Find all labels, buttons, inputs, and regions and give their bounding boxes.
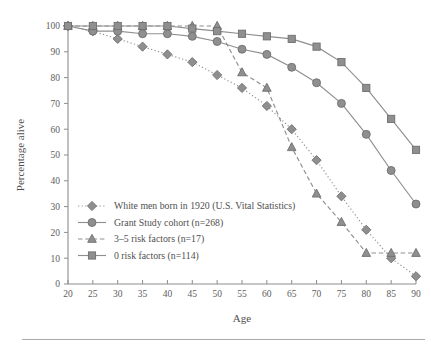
y-tick-label-80: 80 — [51, 73, 61, 83]
x-tick-label-60: 60 — [262, 289, 272, 299]
series-2-point-14 — [412, 248, 421, 256]
series-0-point-3 — [138, 42, 147, 51]
survival-curve-chart: 0102030405060708090100202530354045505560… — [0, 0, 431, 356]
legend-label-1: Grant Study cohort (n=268) — [114, 217, 223, 229]
y-tick-label-90: 90 — [51, 47, 61, 57]
x-axis-title: Age — [233, 312, 251, 324]
series-0-point-6 — [213, 70, 222, 79]
series-3-point-1 — [89, 22, 96, 29]
series-1-point-10 — [313, 79, 321, 87]
series-3-point-3 — [139, 22, 146, 29]
y-tick-label-0: 0 — [55, 279, 60, 289]
series-1-point-7 — [238, 45, 246, 53]
series-1-point-11 — [337, 99, 345, 107]
y-tick-label-70: 70 — [51, 99, 61, 109]
legend-entry-2: 3–5 risk factors (n=17) — [78, 233, 204, 245]
x-tick-label-20: 20 — [63, 289, 73, 299]
series-2-point-9 — [287, 143, 296, 151]
series-1-point-13 — [387, 166, 395, 174]
y-tick-label-30: 30 — [51, 202, 61, 212]
legend-marker-3 — [88, 252, 95, 259]
series-0-point-5 — [188, 58, 197, 67]
x-tick-label-85: 85 — [386, 289, 396, 299]
x-tick-label-75: 75 — [337, 289, 347, 299]
series-3-point-4 — [164, 22, 171, 29]
series-3-point-0 — [64, 22, 71, 29]
series-1-point-8 — [263, 50, 271, 58]
y-tick-label-10: 10 — [51, 254, 61, 264]
series-2-point-13 — [387, 248, 396, 256]
x-tick-label-30: 30 — [113, 289, 123, 299]
series-1-point-5 — [188, 32, 196, 40]
series-1-point-4 — [163, 30, 171, 38]
legend-marker-1 — [88, 219, 96, 227]
series-1-point-14 — [412, 200, 420, 208]
x-tick-label-50: 50 — [212, 289, 222, 299]
series-0-point-7 — [237, 83, 246, 92]
series-3-point-14 — [412, 146, 419, 153]
series-3-point-9 — [288, 35, 295, 42]
legend-label-3: 0 risk factors (n=114) — [114, 250, 199, 262]
series-0-point-12 — [362, 225, 371, 234]
y-tick-label-20: 20 — [51, 228, 61, 238]
legend-entry-1: Grant Study cohort (n=268) — [78, 217, 223, 229]
legend-marker-2 — [88, 234, 97, 242]
x-tick-label-80: 80 — [362, 289, 372, 299]
series-2-point-7 — [238, 68, 247, 76]
x-tick-label-70: 70 — [312, 289, 322, 299]
series-3-point-10 — [313, 43, 320, 50]
series-1-point-12 — [362, 130, 370, 138]
series-3-point-6 — [214, 28, 221, 35]
series-0-point-2 — [113, 34, 122, 43]
series-2-point-10 — [312, 189, 321, 197]
x-tick-label-90: 90 — [411, 289, 421, 299]
series-0-point-8 — [262, 101, 271, 110]
x-tick-label-55: 55 — [237, 289, 247, 299]
series-3-point-2 — [114, 22, 121, 29]
legend-marker-0 — [87, 201, 96, 210]
series-3-point-13 — [388, 115, 395, 122]
x-tick-label-45: 45 — [188, 289, 198, 299]
series-1-point-6 — [213, 37, 221, 45]
footer-rule — [22, 339, 425, 340]
figure-container: 0102030405060708090100202530354045505560… — [0, 0, 431, 356]
x-tick-label-25: 25 — [88, 289, 98, 299]
x-tick-label-65: 65 — [287, 289, 297, 299]
x-tick-label-35: 35 — [138, 289, 148, 299]
series-1-point-3 — [139, 30, 147, 38]
series-0-point-14 — [411, 272, 420, 281]
series-2-point-8 — [263, 83, 272, 91]
series-1-point-9 — [288, 63, 296, 71]
y-tick-label-60: 60 — [51, 125, 61, 135]
y-axis-title: Percentage alive — [14, 119, 26, 191]
series-3-point-5 — [189, 25, 196, 32]
y-tick-label-40: 40 — [51, 176, 61, 186]
legend-entry-3: 0 risk factors (n=114) — [78, 250, 199, 262]
series-3-point-8 — [263, 33, 270, 40]
series-3-point-7 — [238, 30, 245, 37]
legend-entry-0: White men born in 1920 (U.S. Vital Stati… — [78, 200, 295, 212]
y-tick-label-50: 50 — [51, 150, 61, 160]
series-2-point-12 — [362, 248, 371, 256]
legend-label-2: 3–5 risk factors (n=17) — [114, 233, 204, 245]
x-tick-label-40: 40 — [163, 289, 173, 299]
legend-label-0: White men born in 1920 (U.S. Vital Stati… — [114, 200, 295, 212]
series-3-point-11 — [338, 59, 345, 66]
series-0-point-11 — [337, 192, 346, 201]
y-tick-label-100: 100 — [46, 21, 61, 31]
series-0-point-4 — [163, 50, 172, 59]
series-3-point-12 — [363, 84, 370, 91]
